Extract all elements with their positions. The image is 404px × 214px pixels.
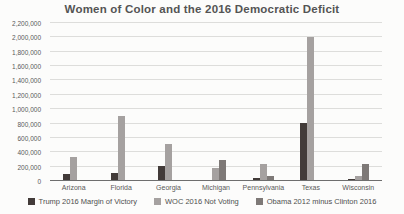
y-tick-label: 2,200,000 (12, 20, 41, 27)
x-tick-label: Wisconsin (335, 184, 382, 191)
legend-label: Trump 2016 Margin of Victory (39, 197, 137, 206)
x-tick-label: Florida (97, 184, 144, 191)
bar-cluster (240, 23, 287, 181)
y-tick-label: 0 (37, 178, 41, 185)
x-tick-label: Texas (287, 184, 334, 191)
bar (158, 166, 165, 181)
bar-cluster (287, 23, 334, 181)
bar (300, 123, 307, 181)
legend-item: Obama 2012 minus Clinton 2016 (256, 197, 377, 206)
bar-cluster (192, 23, 239, 181)
y-tick-label: 600,000 (18, 134, 42, 141)
y-tick-label: 400,000 (18, 149, 42, 156)
y-tick-label: 2,000,000 (12, 34, 41, 41)
x-tick-label: Arizona (50, 184, 97, 191)
bar (260, 164, 267, 181)
y-tick-label: 1,000,000 (12, 106, 41, 113)
bar (70, 157, 77, 181)
legend: Trump 2016 Margin of VictoryWOC 2016 Not… (0, 197, 404, 206)
bar (219, 160, 226, 181)
legend-item: WOC 2016 Not Voting (154, 197, 239, 206)
x-tick-label: Michigan (192, 184, 239, 191)
y-tick-label: 800,000 (18, 120, 42, 127)
legend-label: Obama 2012 minus Clinton 2016 (267, 197, 377, 206)
bar (307, 37, 314, 181)
x-tick-label: Pennsylvania (240, 184, 287, 191)
legend-item: Trump 2016 Margin of Victory (28, 197, 137, 206)
legend-swatch-icon (28, 198, 35, 205)
bar-chart: Women of Color and the 2016 Democratic D… (0, 0, 404, 214)
bar-cluster (145, 23, 192, 181)
y-axis-labels: 0200,000400,000600,000800,0001,000,0001,… (0, 23, 44, 181)
y-tick-label: 1,800,000 (12, 48, 41, 55)
legend-label: WOC 2016 Not Voting (165, 197, 239, 206)
x-axis-line (50, 180, 382, 181)
bars (50, 23, 382, 181)
y-tick-label: 1,400,000 (12, 77, 41, 84)
chart-title: Women of Color and the 2016 Democratic D… (0, 3, 404, 15)
bar (362, 164, 369, 181)
bar-cluster (335, 23, 382, 181)
x-axis-labels: ArizonaFloridaGeorgiaMichiganPennsylvani… (50, 184, 382, 191)
bar-cluster (97, 23, 144, 181)
y-tick-label: 200,000 (18, 163, 42, 170)
y-tick-label: 1,200,000 (12, 91, 41, 98)
bar (165, 144, 172, 181)
plot-area (50, 23, 382, 181)
bar-cluster (50, 23, 97, 181)
x-tick-label: Georgia (145, 184, 192, 191)
legend-swatch-icon (154, 198, 161, 205)
bar (118, 116, 125, 181)
y-tick-label: 1,600,000 (12, 63, 41, 70)
legend-swatch-icon (256, 198, 263, 205)
